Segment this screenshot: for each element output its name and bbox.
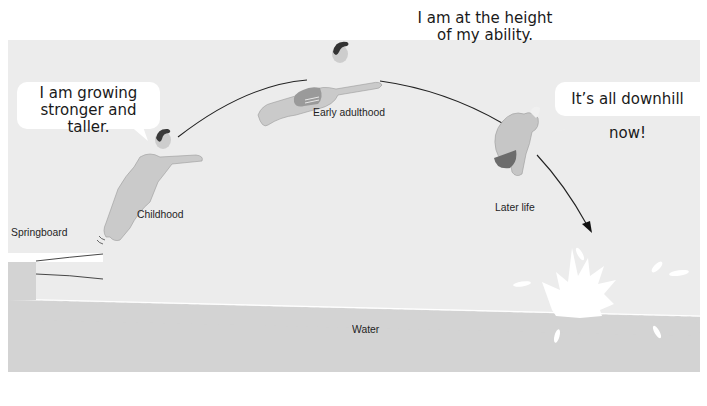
elderly-diver-figure <box>494 107 540 176</box>
label-springboard: Springboard <box>11 226 67 238</box>
child-diver-figure <box>104 129 202 241</box>
speech-line: I am at the height <box>415 10 555 27</box>
label-early-adulthood: Early adulthood <box>313 106 385 118</box>
spring-motion-marks <box>97 236 105 244</box>
speech-bubble-early-adulthood: I am at the height of my ability. <box>415 10 555 44</box>
springboard <box>8 253 103 300</box>
label-childhood: Childhood <box>137 208 184 220</box>
speech-bubble-childhood: I am growing stronger and taller. <box>17 82 160 129</box>
label-water: Water <box>352 323 379 335</box>
speech-bubble-later-life: It’s all downhill now! <box>555 82 700 116</box>
label-later-life: Later life <box>495 201 535 213</box>
speech-line: I am growing <box>17 85 160 102</box>
speech-line: of my ability. <box>415 27 555 44</box>
speech-line: stronger and taller. <box>17 102 160 136</box>
speech-line: It’s all downhill now! <box>555 82 700 150</box>
diving-scene <box>0 0 707 406</box>
